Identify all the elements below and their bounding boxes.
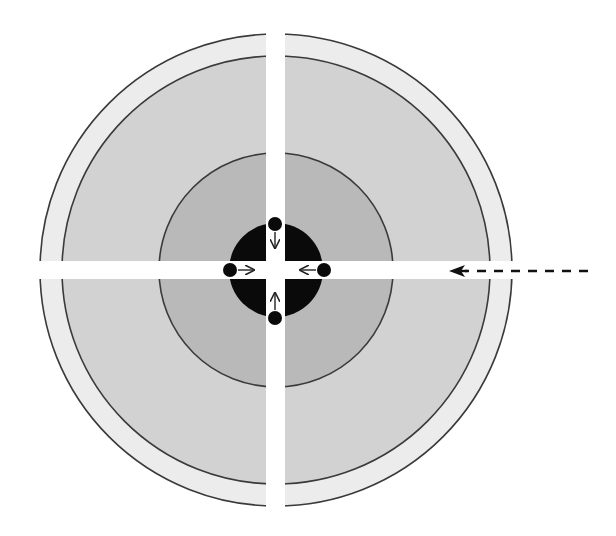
cross-channels <box>30 20 520 520</box>
particle-dot <box>268 311 282 325</box>
diagram-canvas <box>0 0 616 536</box>
particle-dot <box>223 263 237 277</box>
concentric-target-diagram <box>0 0 616 536</box>
particle-dot <box>268 217 282 231</box>
vertical-channel <box>266 20 285 520</box>
particle-dot <box>317 263 331 277</box>
